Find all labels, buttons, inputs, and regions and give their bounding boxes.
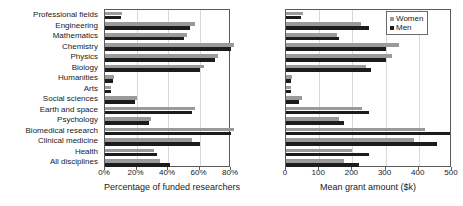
category-label: All disciplines — [50, 156, 98, 167]
bar-men — [286, 68, 371, 72]
bar-men — [286, 47, 386, 51]
bar-men — [105, 79, 113, 83]
bar-men — [286, 26, 369, 30]
bar-men — [286, 121, 344, 125]
plot-area-percentage — [104, 9, 230, 167]
bar-men — [105, 90, 111, 94]
legend: Women Men — [386, 11, 428, 35]
bar-men — [105, 68, 200, 72]
bar-men — [105, 37, 184, 41]
legend-label-women: Women — [396, 14, 423, 23]
x-tick-label: 500 — [444, 168, 457, 177]
bar-men — [286, 90, 291, 94]
bar-men — [105, 121, 149, 125]
bar-men — [286, 79, 291, 83]
x-axis-title-left: Percentage of funded researchers — [104, 182, 230, 192]
bar-men — [286, 111, 369, 115]
bar-men — [105, 163, 170, 167]
x-tick-label: 60% — [190, 168, 206, 177]
x-tick-label: 40% — [159, 168, 175, 177]
bar-men — [105, 47, 231, 51]
x-tick-label: 200 — [345, 168, 358, 177]
bar-men — [286, 58, 386, 62]
x-tick-label: 0% — [98, 168, 110, 177]
x-axis-tick-labels-left: 0%20%40%60%80% — [104, 168, 230, 180]
legend-item-men: Men — [390, 23, 423, 32]
x-tick-label: 20% — [127, 168, 143, 177]
bar-men — [286, 16, 301, 20]
bar-men — [286, 163, 359, 167]
x-tick-label: 0 — [283, 168, 287, 177]
legend-item-women: Women — [390, 14, 423, 23]
bar-men — [105, 58, 215, 62]
legend-label-men: Men — [396, 23, 412, 32]
category-axis-labels-left: Professional fieldsEngineeringMathematic… — [0, 9, 101, 167]
bar-men — [286, 142, 437, 146]
x-tick-label: 400 — [411, 168, 424, 177]
x-axis-tick-labels-right: 0100200300400500 — [285, 168, 451, 180]
legend-swatch-women-icon — [390, 17, 394, 21]
bar-men — [105, 142, 200, 146]
figure: Professional fieldsEngineeringMathematic… — [0, 0, 463, 206]
bar-men — [286, 100, 299, 104]
bar-men — [286, 132, 450, 136]
bar-men — [105, 16, 121, 20]
x-tick-label: 100 — [312, 168, 325, 177]
bar-men — [286, 153, 369, 157]
bar-men — [286, 37, 339, 41]
x-tick-label: 300 — [378, 168, 391, 177]
bar-rows-left — [105, 10, 229, 166]
bar-men — [105, 26, 190, 30]
legend-swatch-men-icon — [390, 26, 394, 30]
bar-men — [105, 132, 231, 136]
bar-men — [105, 111, 192, 115]
x-axis-title-right: Mean grant amount ($k) — [285, 182, 451, 192]
bar-men — [105, 153, 157, 157]
chart-panel-grant-amount: Women Men 0100200300400500 Mean grant am… — [232, 0, 463, 206]
bar-men — [105, 100, 135, 104]
chart-panel-percentage: Professional fieldsEngineeringMathematic… — [0, 0, 232, 206]
